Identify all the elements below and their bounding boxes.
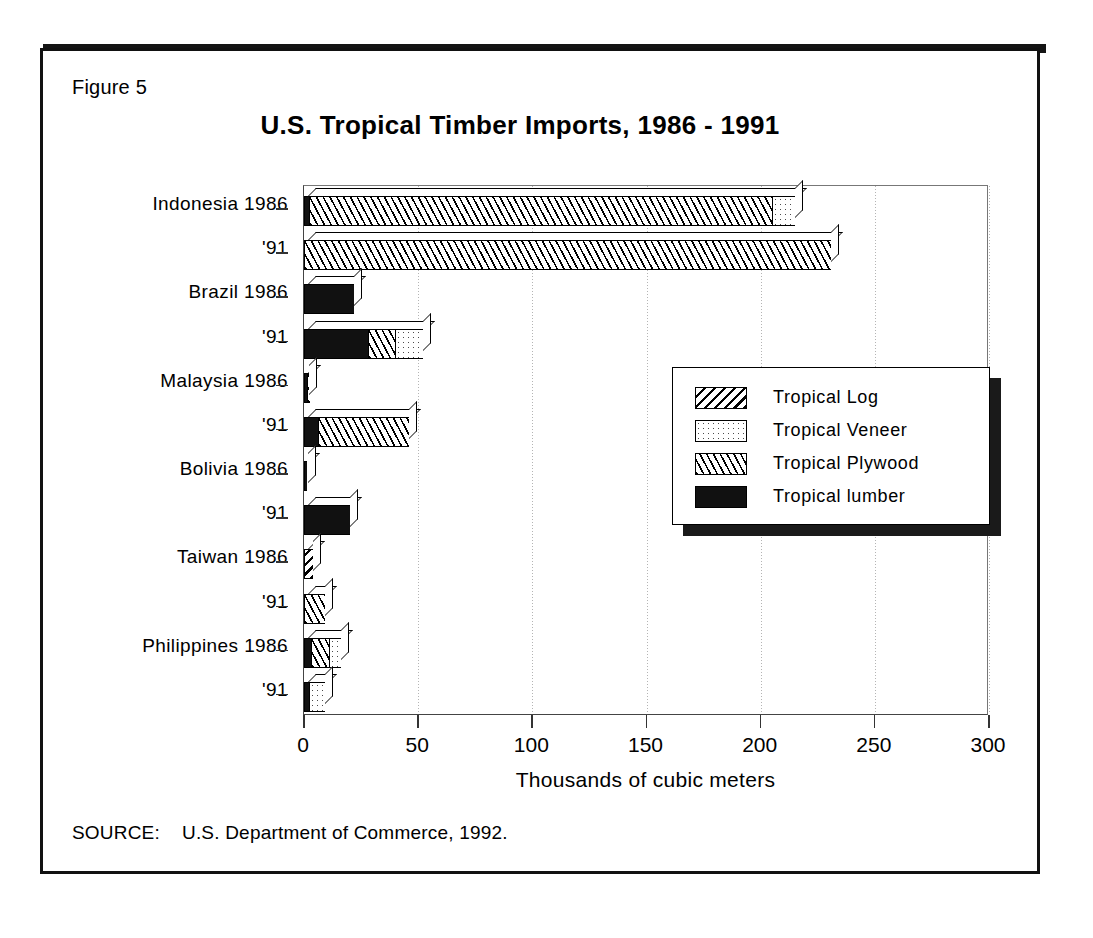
x-axis-tick	[646, 715, 648, 728]
legend-label: Tropical lumber	[773, 486, 905, 507]
y-axis-tick	[276, 296, 288, 298]
legend-item[interactable]: Tropical Plywood	[695, 447, 989, 480]
bar-segment	[304, 549, 313, 579]
bar-segment	[304, 329, 368, 359]
stacked-bar[interactable]	[304, 638, 341, 668]
y-axis-tick	[276, 694, 288, 696]
y-axis-label: Taiwan 1986	[16, 546, 288, 568]
y-axis-label: '91	[16, 237, 288, 259]
bar-segment	[309, 196, 773, 226]
stacked-bar[interactable]	[304, 417, 409, 447]
y-axis-label: '91	[16, 502, 288, 524]
bar-row	[304, 329, 989, 363]
y-axis-tick	[276, 561, 288, 563]
y-axis-label: '91	[16, 679, 288, 701]
bar-side-face	[423, 313, 431, 351]
bar-segment	[395, 329, 422, 359]
bar-side-face	[313, 533, 321, 571]
y-axis-label: '91	[16, 326, 288, 348]
stacked-bar[interactable]	[304, 329, 423, 359]
figure-page: Figure 5 U.S. Tropical Timber Imports, 1…	[0, 0, 1093, 938]
x-axis-tick	[988, 715, 990, 728]
stacked-bar[interactable]	[304, 373, 310, 403]
stacked-bar[interactable]	[304, 196, 795, 226]
legend-swatch	[695, 420, 747, 442]
bar-side-face	[409, 401, 417, 439]
bar-side-face	[341, 622, 349, 660]
bar-side-face	[308, 445, 316, 483]
bar-side-face	[309, 357, 317, 395]
figure-label: Figure 5	[72, 76, 147, 99]
bar-row	[304, 284, 989, 318]
bar-segment	[311, 638, 329, 668]
bar-segment	[368, 329, 395, 359]
source-note: SOURCE:U.S. Department of Commerce, 1992…	[72, 822, 508, 844]
bar-row	[304, 682, 989, 716]
y-axis-tick	[276, 341, 288, 343]
x-axis-tick	[303, 715, 305, 728]
chart-title: U.S. Tropical Timber Imports, 1986 - 199…	[40, 110, 1000, 141]
y-axis-label: Bolivia 1986	[16, 458, 288, 480]
bar-segment	[304, 240, 831, 270]
x-axis-tick	[531, 715, 533, 728]
bar-segment	[304, 594, 325, 624]
bar-top-face	[308, 232, 843, 240]
bar-segment	[304, 461, 307, 491]
bar-segment	[309, 682, 325, 712]
legend-item[interactable]: Tropical lumber	[695, 480, 989, 513]
bar-row	[304, 638, 989, 672]
bar-segment	[304, 638, 311, 668]
y-axis-label: Brazil 1986	[16, 281, 288, 303]
y-axis-tick	[276, 385, 288, 387]
x-axis-label: 200	[742, 733, 777, 757]
stacked-bar[interactable]	[304, 549, 313, 579]
legend-item[interactable]: Tropical Veneer	[695, 414, 989, 447]
x-axis: 050100150200250300	[303, 715, 988, 716]
stacked-bar[interactable]	[304, 682, 325, 712]
bar-row	[304, 594, 989, 628]
stacked-bar[interactable]	[304, 594, 325, 624]
bar-top-face	[308, 409, 421, 417]
chart-legend: Tropical LogTropical VeneerTropical Plyw…	[672, 367, 990, 525]
y-axis-tick	[276, 517, 288, 519]
legend-swatch	[695, 486, 747, 508]
legend-swatch	[695, 387, 747, 409]
bar-segment	[304, 284, 354, 314]
legend-label: Tropical Plywood	[773, 453, 919, 474]
stacked-bar[interactable]	[304, 505, 350, 535]
x-axis-label: 150	[628, 733, 663, 757]
legend-label: Tropical Veneer	[773, 420, 907, 441]
bar-row	[304, 549, 989, 583]
bar-segment	[318, 417, 409, 447]
bar-side-face	[350, 489, 358, 527]
stacked-bar[interactable]	[304, 284, 354, 314]
legend-label: Tropical Log	[773, 387, 879, 408]
x-axis-tick	[874, 715, 876, 728]
bar-side-face	[831, 224, 839, 262]
source-lead: SOURCE:	[72, 822, 160, 843]
y-axis-labels: Indonesia 1986'91Brazil 1986'91Malaysia …	[0, 185, 288, 715]
bar-segment	[304, 417, 318, 447]
y-axis-tick	[276, 429, 288, 431]
bar-segment	[304, 505, 350, 535]
y-axis-label: Indonesia 1986	[16, 193, 288, 215]
y-axis-tick	[276, 650, 288, 652]
y-axis-tick	[276, 606, 288, 608]
x-axis-tick	[417, 715, 419, 728]
bar-top-face	[308, 321, 435, 329]
bar-side-face	[325, 666, 333, 704]
bar-segment	[772, 196, 795, 226]
legend-item[interactable]: Tropical Log	[695, 381, 989, 414]
stacked-bar[interactable]	[304, 240, 831, 270]
bar-top-face	[308, 188, 807, 196]
bar-side-face	[795, 180, 803, 218]
y-axis-label: '91	[16, 591, 288, 613]
bar-row	[304, 196, 989, 230]
y-axis-label: Philippines 1986	[16, 635, 288, 657]
stacked-bar[interactable]	[304, 461, 307, 491]
bar-row	[304, 240, 989, 274]
y-axis-label: Malaysia 1986	[16, 370, 288, 392]
x-axis-label: 0	[297, 733, 309, 757]
y-axis-label: '91	[16, 414, 288, 436]
x-axis-label: 300	[970, 733, 1005, 757]
